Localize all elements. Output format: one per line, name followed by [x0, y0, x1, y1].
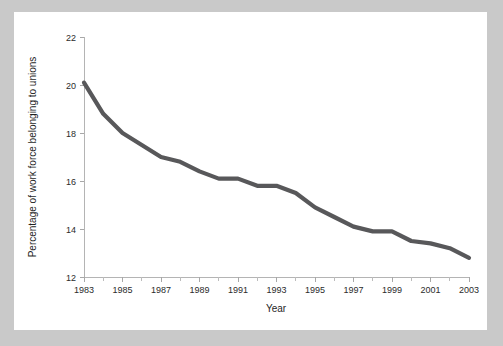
y-tick-label: 22: [66, 33, 76, 43]
x-tick-label: 1997: [343, 285, 363, 295]
data-series-line: [84, 83, 469, 258]
screenshot-root: 121416182022 198319851987198919911993199…: [0, 0, 503, 346]
x-tick-label: 1993: [266, 285, 286, 295]
y-tick-label: 16: [66, 177, 76, 187]
chart-card: 121416182022 198319851987198919911993199…: [14, 12, 487, 330]
x-tick-label: 2001: [420, 285, 440, 295]
x-tick-label: 1995: [305, 285, 325, 295]
x-tick-label: 1985: [112, 285, 132, 295]
y-tick-label: 18: [66, 129, 76, 139]
y-axis-title: Percentage of work force belonging to un…: [27, 57, 38, 258]
x-tick-label: 1987: [151, 285, 171, 295]
y-tick-label: 14: [66, 225, 76, 235]
x-tick-label: 2003: [459, 285, 479, 295]
x-tick-label: 1991: [228, 285, 248, 295]
x-tick-group: 1983198519871989199119931995199719992001…: [74, 277, 479, 295]
x-tick-label: 1999: [382, 285, 402, 295]
x-tick-label: 1989: [189, 285, 209, 295]
y-tick-label: 20: [66, 81, 76, 91]
y-tick-label: 12: [66, 273, 76, 283]
y-tick-group: 121416182022: [66, 33, 84, 283]
union-membership-line-chart: 121416182022 198319851987198919911993199…: [14, 12, 487, 330]
x-axis-title: Year: [266, 303, 287, 314]
x-tick-label: 1983: [74, 285, 94, 295]
